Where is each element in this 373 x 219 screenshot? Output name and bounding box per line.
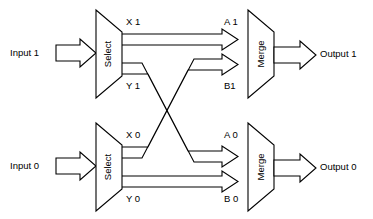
output-label-0: Output 0 — [320, 161, 356, 172]
port-label-a0: A 0 — [224, 129, 238, 140]
output-arrow-1 — [274, 41, 316, 69]
port-label-b1: B1 — [224, 80, 236, 91]
port-label-x1: X 1 — [126, 16, 140, 27]
input-arrow-0 — [56, 152, 96, 180]
select-block-top-label: Select — [102, 40, 113, 67]
output-label-1: Output 1 — [320, 48, 356, 59]
output-arrow-0 — [274, 154, 316, 182]
wire-x0-to-b1 — [122, 54, 238, 158]
wire-x1-to-a1 — [122, 29, 238, 50]
port-label-x0: X 0 — [126, 129, 140, 140]
input-arrow-1 — [56, 39, 96, 67]
select-block-bottom-label: Select — [102, 153, 113, 180]
diagram-canvas: Input 1 Select X 1 Y 1 Merge A 1 B1 Outp… — [0, 0, 373, 219]
port-label-y0: Y 0 — [126, 193, 140, 204]
merge-block-top-label: Merge — [255, 41, 266, 68]
input-label-0: Input 0 — [10, 160, 39, 171]
port-label-a1: A 1 — [224, 16, 238, 27]
wire-y0-to-a0 — [122, 171, 238, 192]
port-label-y1: Y 1 — [126, 80, 140, 91]
port-label-b0: B 0 — [224, 193, 238, 204]
input-label-1: Input 1 — [10, 47, 39, 58]
select-merge-diagram: Input 1 Select X 1 Y 1 Merge A 1 B1 Outp… — [0, 0, 373, 219]
merge-block-bottom-label: Merge — [255, 154, 266, 181]
